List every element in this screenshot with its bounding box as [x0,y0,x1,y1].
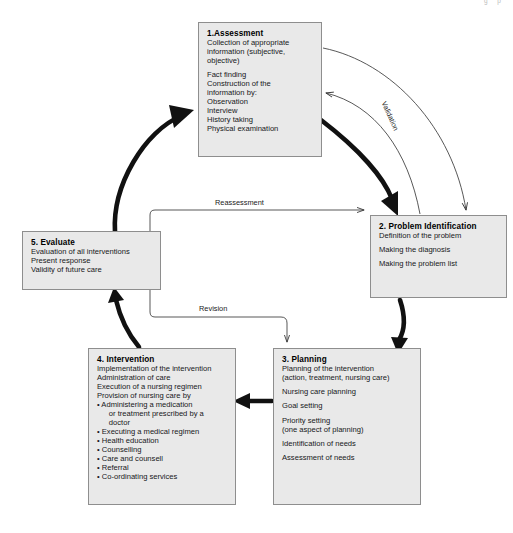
arrow-evaluate-to-assessment [115,105,194,232]
node-planning-line: Nursing care planning [282,388,413,397]
arrow-validation [326,93,420,214]
arrow-problem-to-planning [391,300,408,354]
diagram-canvas: g p [0,0,513,533]
node-evaluate[interactable]: 5. Evaluate Evaluation of all interventi… [22,231,161,290]
node-planning-line: (action, treatment, nursing care) [282,374,413,383]
arrow-assessment-to-problem [321,120,398,216]
arrow-planning-to-intervention [233,393,272,409]
page-corner-text: g p [484,0,505,4]
node-planning-line: Assessment of needs [282,454,413,463]
node-problem-identification-line: Making the problem list [379,260,499,269]
node-problem-identification-line: Definition of the problem [379,232,499,241]
edge-label-reassessment: Reassessment [215,198,264,207]
node-assessment-line: Physical examination [207,125,314,134]
node-intervention-bullet: • Co-ordinating services [97,473,228,482]
node-problem-identification[interactable]: 2. Problem Identification Definition of … [370,215,507,298]
node-planning-line: (one aspect of planning) [282,426,413,435]
arrow-reassessment [150,210,364,243]
node-intervention[interactable]: 4. Intervention Implementation of the in… [88,348,236,505]
node-planning-line: Identification of needs [282,440,413,449]
node-assessment[interactable]: 1.Assessment Collection of appropriate i… [198,22,322,157]
node-evaluate-line: Validity of future care [31,266,153,275]
edge-label-validation: Validation [380,100,401,132]
node-planning-line: Goal setting [282,402,413,411]
edge-label-revision: Revision [199,304,227,313]
node-planning[interactable]: 3. Planning Planning of the intervention… [273,348,421,505]
node-assessment-line: objective) [207,57,314,66]
node-problem-identification-line: Making the diagnosis [379,246,499,255]
arrow-intervention-to-evaluate [108,287,139,347]
